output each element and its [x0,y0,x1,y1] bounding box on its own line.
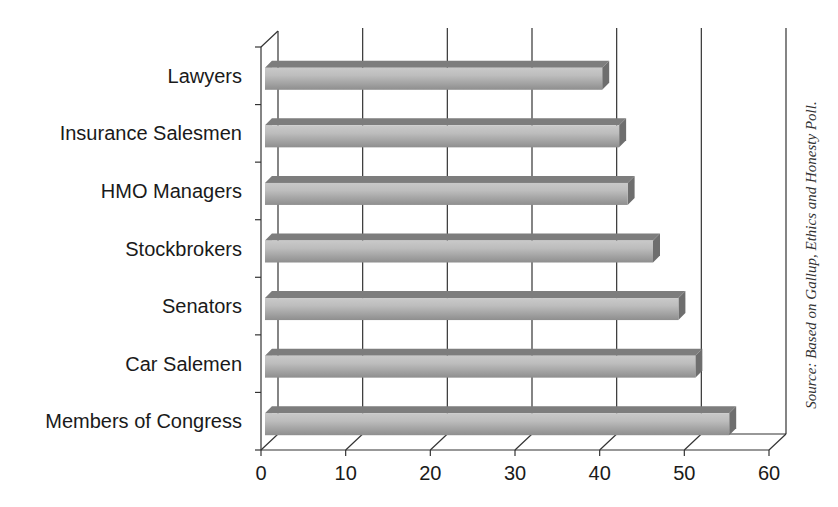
bar [265,234,660,263]
x-tick-label: 10 [335,462,357,484]
category-label: Lawyers [168,65,242,87]
floor-line [261,434,278,450]
category-label: Car Salemen [125,353,242,375]
category-label: Senators [162,295,242,317]
bar-chart: 0102030405060LawyersInsurance SalesmenHM… [0,0,838,507]
bar [265,406,736,435]
chart-canvas: 0102030405060LawyersInsurance SalesmenHM… [0,0,838,507]
source-text: Source: Based on Gallup, Ethics and Hone… [803,101,820,408]
floor-line [684,434,701,450]
category-label: HMO Managers [101,180,242,202]
category-label: Members of Congress [45,410,242,432]
floor-line [600,434,617,450]
x-tick-label: 30 [504,462,526,484]
x-tick-label: 20 [419,462,441,484]
x-tick-label: 60 [758,462,780,484]
floor-line [430,434,447,450]
floor-line [515,434,532,450]
bar [265,291,685,320]
floor-line [346,434,363,450]
bar [265,176,635,205]
x-tick-label: 0 [255,462,266,484]
bar [265,349,702,378]
x-tick-label: 40 [589,462,611,484]
bar [265,61,609,90]
category-label: Insurance Salesmen [60,122,242,144]
source-note: Source: Based on Gallup, Ethics and Hone… [796,40,826,470]
floor-line [769,434,786,450]
wall-top-edge [261,31,278,47]
category-label: Stockbrokers [125,238,242,260]
bars [265,61,736,435]
x-tick-label: 50 [673,462,695,484]
bar [265,118,626,147]
